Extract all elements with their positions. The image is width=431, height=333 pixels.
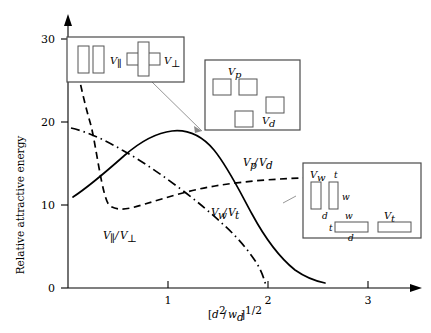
- x-axis-label-slash: /: [223, 308, 227, 320]
- vertical-bar-2-icon: [329, 182, 338, 209]
- square-glyph-3-icon: [266, 97, 284, 113]
- inset3-dim-t-left: t: [329, 223, 333, 233]
- inset1-leader: [152, 82, 202, 133]
- plot-svg: 0 10 20 30 1 2 3 Relative attractive ene…: [0, 0, 431, 333]
- horizontal-bar-1-icon: [335, 222, 368, 232]
- x-axis-label-exp: 1/2: [245, 304, 262, 316]
- x-axis-label: [ d 2 / w d ] 1/2: [208, 304, 262, 323]
- curve-vw-vt: [73, 131, 325, 283]
- square-glyph-2-icon: [239, 79, 257, 95]
- inset3-dim-d-bottom: d: [322, 211, 328, 221]
- square-glyph-1-icon: [213, 79, 231, 95]
- inset-paired-dispersed: V p V d: [205, 60, 300, 130]
- parallel-bar-2-icon: [93, 46, 104, 73]
- curve-label-vp-vd: V p / V d: [243, 156, 273, 171]
- inset3-dim-w-right: w: [342, 192, 350, 202]
- parallel-bar-1-icon: [78, 46, 89, 73]
- y-axis-arrowhead: [64, 14, 72, 26]
- inset3-dim-d-under: d: [348, 233, 354, 243]
- square-glyph-4-icon: [235, 111, 253, 127]
- cross-vertical-bar-icon: [138, 42, 149, 76]
- horizontal-bar-2-icon: [378, 222, 411, 232]
- curve-label-vperp-den-sub: ⊥: [127, 232, 137, 244]
- y-ticks-group: 0 10 20 30: [41, 33, 68, 295]
- y-ticklabel-20: 20: [41, 116, 55, 129]
- inset3-dim-t-top: t: [334, 170, 338, 180]
- x-ticklabel-3: 3: [365, 294, 372, 307]
- x-axis-label-den: w: [228, 308, 237, 320]
- curve-label-vp-vd-den-sub: d: [266, 159, 273, 171]
- y-ticklabel-10: 10: [41, 199, 55, 212]
- y-axis-label: Relative attractive energy: [14, 136, 26, 275]
- inset3-label-w-sub: w: [317, 172, 326, 183]
- vertical-bar-1-icon: [311, 182, 321, 209]
- x-axis-arrowhead: [410, 284, 422, 292]
- inset2-label-p-sub: p: [235, 69, 242, 80]
- x-ticklabel-2: 2: [265, 294, 272, 307]
- y-ticklabel-30: 30: [41, 33, 55, 46]
- x-ticks-group: 1 2 3: [165, 281, 372, 307]
- x-axis-label-base: d: [212, 308, 219, 320]
- y-ticklabel-0: 0: [48, 282, 55, 295]
- x-ticklabel-1: 1: [165, 294, 172, 307]
- curve-label-vpar-vperp: V ∥ / V ⊥: [103, 229, 137, 244]
- inset1-label-parallel-sub: ∥: [117, 58, 122, 69]
- inset2-label-d-sub: d: [269, 118, 275, 129]
- inset-parallel-perpendicular: V ∥ V ⊥: [67, 37, 184, 82]
- inset-width-thickness: V w t w d w t d V t: [303, 163, 421, 243]
- inset1-label-perp-sub: ⊥: [171, 58, 180, 69]
- figure-canvas: 0 10 20 30 1 2 3 Relative attractive ene…: [0, 0, 431, 333]
- inset3-dim-w-top: w: [345, 211, 353, 221]
- curve-label-vw-vt-den-sub: t: [235, 209, 240, 221]
- curve-vpar-vperp: [71, 128, 266, 286]
- inset3-leader: [283, 196, 296, 203]
